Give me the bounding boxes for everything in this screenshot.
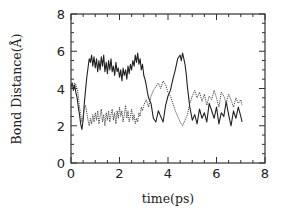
- y-tick-label: 6: [57, 44, 65, 59]
- x-tick-label: 0: [67, 166, 75, 181]
- series-layer: [71, 53, 242, 129]
- x-tick-label: 8: [261, 166, 269, 181]
- x-tick-label: 6: [212, 166, 220, 181]
- axis-ticks: [71, 14, 265, 163]
- bond-distance-chart: 0246802468 time(ps) Bond Distance(Å): [0, 0, 282, 211]
- y-tick-label: 2: [57, 119, 65, 134]
- plot-frame: [71, 14, 265, 163]
- y-tick-label: 4: [57, 82, 65, 97]
- y-tick-label: 8: [57, 7, 65, 22]
- y-tick-label: 0: [57, 156, 65, 171]
- x-axis-title: time(ps): [142, 191, 194, 206]
- axis-tick-labels: 0246802468: [57, 7, 269, 181]
- x-tick-label: 4: [164, 166, 172, 181]
- x-tick-label: 2: [115, 166, 123, 181]
- y-axis-title: Bond Distance(Å): [9, 34, 24, 145]
- plot-area: [71, 14, 265, 163]
